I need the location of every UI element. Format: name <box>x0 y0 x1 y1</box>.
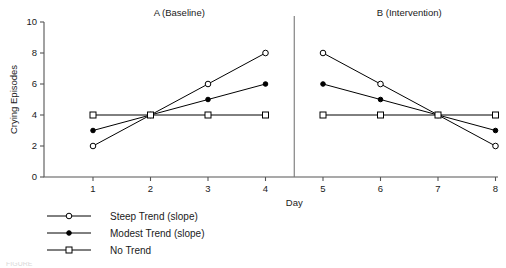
y-axis-tick-label: 8 <box>32 47 37 58</box>
x-axis-tick-label: 3 <box>205 183 210 194</box>
legend-label-1: Modest Trend (slope) <box>110 228 205 239</box>
line-chart: 024681012345678DayCrying EpisodesA (Base… <box>0 0 506 262</box>
legend-label-0: Steep Trend (slope) <box>110 211 198 222</box>
series-2-square-marker <box>435 112 441 118</box>
series-0-open-marker <box>320 50 326 56</box>
series-2-square-marker <box>90 112 96 118</box>
series-1-filled-marker <box>91 128 96 133</box>
series-0-line <box>93 53 266 146</box>
x-axis-tick-label: 8 <box>493 183 498 194</box>
x-axis-tick-label: 4 <box>263 183 268 194</box>
y-axis-tick-label: 10 <box>26 16 37 27</box>
series-0-open-marker <box>493 143 499 149</box>
plot-axes <box>44 22 498 177</box>
legend-2-square-marker <box>66 247 72 253</box>
legend-label-2: No Trend <box>110 245 151 256</box>
x-axis-tick-label: 6 <box>378 183 383 194</box>
cropped-caption-strip: FIGURE <box>0 262 506 268</box>
series-1-filled-marker <box>493 128 498 133</box>
series-1-line <box>323 84 496 131</box>
x-axis-tick-label: 2 <box>148 183 153 194</box>
y-axis-title: Crying Episodes <box>8 65 19 134</box>
x-axis-tick-label: 1 <box>90 183 95 194</box>
series-1-line <box>93 84 266 131</box>
series-2-square-marker <box>378 112 384 118</box>
series-2-square-marker <box>320 112 326 118</box>
series-0-open-marker <box>205 81 211 87</box>
series-0-open-marker <box>378 81 384 87</box>
figure-container: 024681012345678DayCrying EpisodesA (Base… <box>0 0 506 268</box>
legend-0-open-marker <box>66 213 72 219</box>
series-2-square-marker <box>263 112 269 118</box>
x-axis-tick-label: 5 <box>320 183 325 194</box>
x-axis-title: Day <box>286 197 303 208</box>
series-2-square-marker <box>148 112 154 118</box>
series-1-filled-marker <box>206 97 211 102</box>
y-axis-tick-label: 4 <box>32 109 37 120</box>
series-2-square-marker <box>493 112 499 118</box>
x-axis-tick-label: 7 <box>435 183 440 194</box>
series-1-filled-marker <box>263 82 268 87</box>
panel-title-a: A (Baseline) <box>154 7 205 18</box>
y-axis-tick-label: 6 <box>32 78 37 89</box>
series-2-square-marker <box>205 112 211 118</box>
series-1-filled-marker <box>321 82 326 87</box>
panel-title-b: B (Intervention) <box>377 7 442 18</box>
cropped-caption-text: FIGURE <box>6 262 32 267</box>
y-axis-tick-label: 0 <box>32 171 37 182</box>
y-axis-tick-label: 2 <box>32 140 37 151</box>
series-0-open-marker <box>263 50 269 56</box>
legend-1-filled-marker <box>67 231 72 236</box>
series-0-open-marker <box>90 143 96 149</box>
series-0-line <box>323 53 496 146</box>
series-1-filled-marker <box>378 97 383 102</box>
